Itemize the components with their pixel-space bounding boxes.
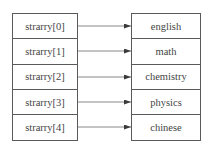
string-values: english math chemistry physics chinese [131,13,201,141]
pointer-cell-4: strarry[4] [13,115,77,140]
value-cell-2: chemistry [132,65,200,90]
pointer-cell-0: strarry[0] [13,14,77,39]
pointer-cell-3: strarry[3] [13,90,77,115]
pointer-array: strarry[0] strarry[1] strarry[2] strarry… [12,13,78,141]
value-cell-4: chinese [132,115,200,140]
value-cell-3: physics [132,90,200,115]
pointer-cell-1: strarry[1] [13,39,77,64]
value-cell-1: math [132,39,200,64]
pointer-cell-2: strarry[2] [13,65,77,90]
value-cell-0: english [132,14,200,39]
